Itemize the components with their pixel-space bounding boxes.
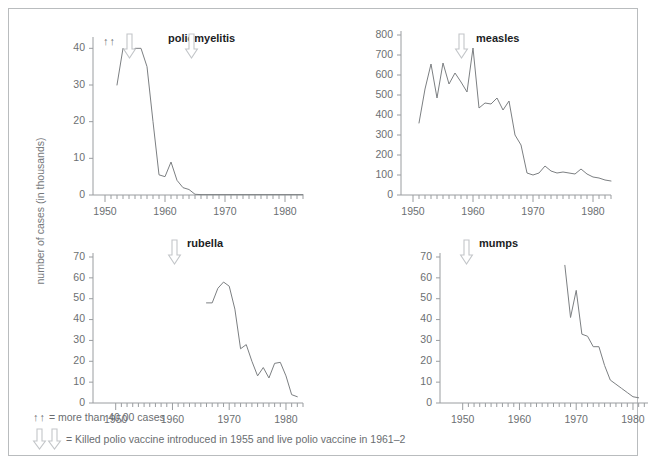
legend-row-vaccine: = Killed polio vaccine introduced in 195… — [33, 428, 405, 450]
chart-svg-mumps: 0102030405060701950196019701980 — [349, 235, 619, 427]
y-tick-label: 10 — [73, 151, 85, 163]
chart-title-mumps: mumps — [479, 237, 518, 249]
x-tick-label: 1980 — [621, 413, 645, 425]
y-tick-label: 20 — [73, 114, 85, 126]
y-tick-label: 30 — [420, 333, 432, 345]
x-tick-label: 1960 — [508, 413, 532, 425]
x-tick-label: 1980 — [274, 413, 298, 425]
legend-row-more-than: ↑↑ = more than 40,00 cases — [33, 410, 165, 423]
chart-panel-poliomyelitis: poliomyelitis ↑↑ 01020304019501960197019… — [41, 23, 311, 223]
legend-label-more-than: = more than 40,00 cases — [49, 411, 165, 423]
double-up-arrow-icon: ↑↑ — [33, 411, 46, 423]
chart-panel-measles: measles 01002003004005006007008001950196… — [349, 23, 619, 223]
x-tick-label: 1970 — [565, 413, 589, 425]
chart-panel-rubella: rubella 0102030405060701950196019701980 — [41, 235, 311, 427]
chart-panel-mumps: mumps 0102030405060701950196019701980 — [349, 235, 619, 427]
x-tick-label: 1980 — [581, 205, 605, 217]
chart-title-measles: measles — [476, 32, 519, 44]
down-arrow-icon-mumps — [460, 239, 473, 265]
chart-title-poliomyelitis: poliomyelitis — [168, 32, 235, 44]
up-arrows-annotation-poliomyelitis: ↑↑ — [103, 36, 116, 47]
y-tick-label: 400 — [375, 108, 393, 120]
figure-frame: number of cases (in thousands) poliomyel… — [8, 8, 638, 456]
y-tick-label: 0 — [426, 396, 432, 408]
x-tick-label: 1970 — [213, 205, 237, 217]
series-line-poliomyelitis — [117, 48, 303, 194]
y-tick-label: 0 — [387, 188, 393, 200]
x-tick-label: 1950 — [93, 205, 117, 217]
y-tick-label: 30 — [73, 333, 85, 345]
y-tick-label: 40 — [73, 41, 85, 53]
y-tick-label: 800 — [375, 28, 393, 40]
x-tick-label: 1960 — [153, 205, 177, 217]
y-tick-label: 500 — [375, 88, 393, 100]
x-tick-label: 1950 — [401, 205, 425, 217]
y-tick-label: 600 — [375, 68, 393, 80]
y-tick-label: 70 — [73, 250, 85, 262]
x-tick-label: 1970 — [218, 413, 242, 425]
series-line-rubella — [207, 282, 298, 397]
y-tick-label: 60 — [73, 271, 85, 283]
y-tick-label: 100 — [375, 168, 393, 180]
y-tick-label: 300 — [375, 128, 393, 140]
y-tick-label: 10 — [73, 375, 85, 387]
y-tick-label: 30 — [73, 78, 85, 90]
y-tick-label: 50 — [420, 291, 432, 303]
down-arrow-icon-polio-live — [185, 33, 198, 59]
y-tick-label: 200 — [375, 148, 393, 160]
y-tick-label: 50 — [73, 291, 85, 303]
chart-svg-poliomyelitis: 0102030401950196019701980 — [41, 23, 311, 223]
y-tick-label: 10 — [420, 375, 432, 387]
down-arrow-icon-measles — [455, 33, 468, 59]
y-tick-label: 60 — [420, 271, 432, 283]
y-tick-label: 20 — [73, 354, 85, 366]
down-arrow-icon-polio-killed — [123, 33, 136, 59]
y-tick-label: 70 — [420, 250, 432, 262]
y-tick-label: 40 — [420, 312, 432, 324]
double-down-arrow-icon — [33, 428, 63, 450]
x-tick-label: 1970 — [521, 205, 545, 217]
y-tick-label: 0 — [79, 188, 85, 200]
chart-title-rubella: rubella — [187, 237, 223, 249]
down-arrow-icon-rubella — [168, 239, 181, 265]
y-tick-label: 20 — [420, 354, 432, 366]
y-tick-label: 700 — [375, 48, 393, 60]
x-tick-label: 1950 — [451, 413, 475, 425]
y-tick-label: 0 — [79, 396, 85, 408]
chart-svg-measles: 0100200300400500600700800195019601970198… — [349, 23, 619, 223]
series-line-mumps — [565, 265, 639, 397]
x-tick-label: 1960 — [461, 205, 485, 217]
legend-label-vaccine: = Killed polio vaccine introduced in 195… — [66, 433, 405, 445]
series-line-measles — [419, 48, 611, 181]
x-tick-label: 1980 — [273, 205, 297, 217]
y-tick-label: 40 — [73, 312, 85, 324]
